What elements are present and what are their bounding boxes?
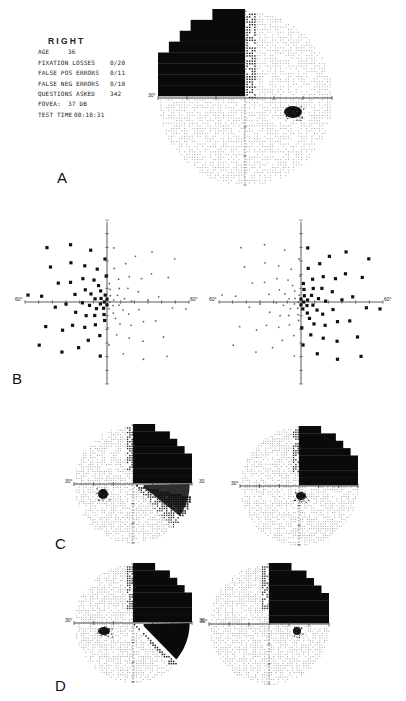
field-c-right-label-left: 30° bbox=[231, 480, 239, 486]
field-d-right-label-left: 30° bbox=[200, 618, 208, 624]
peripheral-field-b-right bbox=[219, 220, 383, 384]
blind-spot-c-left bbox=[96, 488, 110, 501]
blind-spot-a bbox=[284, 106, 304, 121]
field-d-left-label-left: 30° bbox=[65, 617, 73, 623]
blind-spot-d-right bbox=[293, 627, 304, 638]
visual-field-a: 30°60°60°60°60°30°3030°30°3030° bbox=[0, 0, 406, 701]
peripheral-field-b-left-label-right: 60° bbox=[190, 296, 198, 302]
field-d-left-defect-superior-right bbox=[133, 563, 192, 622]
peripheral-field-b-right-label-right: 60° bbox=[384, 296, 392, 302]
peripheral-field-b-left bbox=[25, 220, 189, 384]
field-c-right-defect-superior-right bbox=[299, 426, 358, 485]
field-c-left-defect-superior-right bbox=[133, 424, 192, 483]
peripheral-field-b-right-label-left: 60° bbox=[209, 296, 217, 302]
field-c-left-label-right: 30 bbox=[199, 478, 205, 484]
blind-spot-d-left bbox=[97, 626, 113, 637]
peripheral-field-b-left-label-left: 60° bbox=[15, 296, 23, 302]
field-d-right-defect-superior-right bbox=[269, 563, 329, 623]
field-c-left-label-left: 30° bbox=[65, 478, 73, 484]
blind-spot-c-right bbox=[294, 492, 309, 503]
axis-label-a-left: 30° bbox=[148, 92, 156, 98]
defect-superior-left-a bbox=[158, 9, 245, 96]
